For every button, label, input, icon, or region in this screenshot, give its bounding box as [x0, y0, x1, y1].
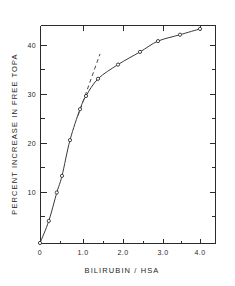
- x-axis-ticks-top: [84, 26, 201, 31]
- x-tick-label: 1.0: [78, 249, 89, 256]
- y-tick-label: 40: [27, 42, 36, 49]
- data-point: [55, 191, 58, 194]
- x-axis-title: BILIRUBIN / HSA: [85, 266, 160, 275]
- x-tick-label: 3.0: [158, 249, 169, 256]
- x-tick-label: 4.0: [195, 249, 206, 256]
- y-tick-label: 20: [27, 140, 36, 147]
- data-point: [47, 219, 50, 222]
- data-point: [78, 108, 81, 111]
- data-point: [84, 94, 87, 97]
- x-axis-ticks: [41, 239, 201, 244]
- data-point: [178, 33, 181, 36]
- y-axis-title: PERCENT INCREASE IN FREE TOPA: [10, 53, 19, 214]
- x-tick-label: 0: [38, 249, 42, 256]
- data-point: [68, 139, 71, 142]
- data-curve: [40, 29, 200, 243]
- y-axis-ticks: [41, 46, 47, 217]
- data-point: [138, 50, 141, 53]
- chart-canvas: 0 1.0 2.0 3.0 4.0 40 30 20 10 BILIRUBIN …: [0, 0, 235, 286]
- y-tick-label: 10: [27, 189, 36, 196]
- y-tick-label: 30: [27, 91, 36, 98]
- figure-container: 0 1.0 2.0 3.0 4.0 40 30 20 10 BILIRUBIN …: [0, 0, 235, 286]
- x-axis-tick-labels: 0 1.0 2.0 3.0 4.0: [38, 249, 206, 256]
- data-markers: [38, 27, 201, 244]
- data-point: [156, 40, 159, 43]
- y-axis-tick-labels: 40 30 20 10: [27, 42, 36, 196]
- data-point: [116, 63, 119, 66]
- data-point: [60, 174, 63, 177]
- y-axis-ticks-right: [210, 46, 216, 217]
- x-tick-label: 2.0: [118, 249, 129, 256]
- data-point: [38, 241, 41, 244]
- data-point: [198, 27, 201, 30]
- data-point: [96, 77, 99, 80]
